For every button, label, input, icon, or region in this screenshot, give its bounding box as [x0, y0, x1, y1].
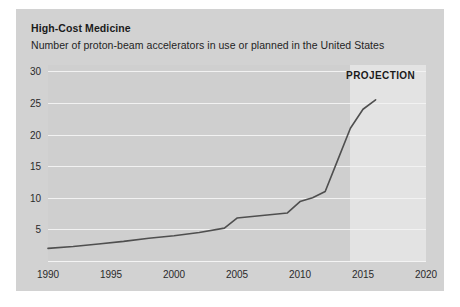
- chart-subtitle: Number of proton-beam accelerators in us…: [31, 39, 384, 51]
- y-axis-tick-label: 10: [30, 192, 41, 203]
- y-axis-tick-label: 5: [35, 224, 41, 235]
- y-axis-tick-label: 15: [30, 161, 41, 172]
- plot-area: 51015202530 1990199520002005201020152020…: [48, 65, 426, 261]
- series-line-chart: [48, 65, 426, 261]
- x-axis-tick-label: 1995: [100, 269, 122, 280]
- y-axis-tick-label: 20: [30, 129, 41, 140]
- x-axis-tick-label: 1990: [37, 269, 59, 280]
- x-axis-line: [48, 261, 426, 262]
- y-axis-tick-label: 30: [30, 66, 41, 77]
- chart-title: High-Cost Medicine: [31, 22, 131, 34]
- x-axis-tick-label: 2015: [352, 269, 374, 280]
- x-axis-tick-label: 2010: [289, 269, 311, 280]
- data-line: [48, 100, 376, 249]
- projection-annotation-label: PROJECTION: [346, 70, 415, 81]
- x-axis-tick-label: 2005: [226, 269, 248, 280]
- x-axis-tick-label: 2000: [163, 269, 185, 280]
- y-axis-tick-label: 25: [30, 97, 41, 108]
- chart-card: High-Cost Medicine Number of proton-beam…: [16, 9, 444, 291]
- x-axis-tick-label: 2020: [415, 269, 437, 280]
